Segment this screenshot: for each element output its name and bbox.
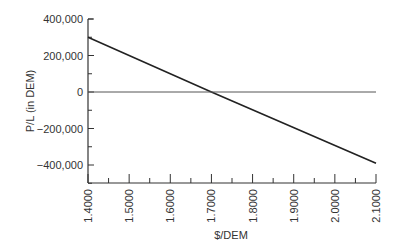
x-tick-label: 1.5000 bbox=[123, 189, 135, 223]
y-tick-label: 200,000 bbox=[43, 50, 83, 62]
x-axis-title: $/DEM bbox=[214, 229, 248, 241]
pl-chart: 400,000200,0000−200,000−400,000 1.40001.… bbox=[0, 0, 399, 247]
x-tick-label: 2.1000 bbox=[370, 189, 382, 223]
plot-area bbox=[88, 37, 376, 163]
y-axis-title: P/L (in DEM) bbox=[24, 70, 36, 133]
x-tick-label: 1.8000 bbox=[247, 189, 259, 223]
y-tick-label: 400,000 bbox=[43, 13, 83, 25]
pl-line bbox=[88, 37, 376, 163]
x-tick-label: 1.7000 bbox=[205, 189, 217, 223]
x-axis: 1.40001.50001.60001.70001.80001.90002.00… bbox=[82, 174, 382, 223]
x-tick-label: 1.4000 bbox=[82, 189, 94, 223]
x-tick-label: 2.0000 bbox=[329, 189, 341, 223]
y-axis: 400,000200,0000−200,000−400,000 bbox=[37, 13, 94, 183]
y-tick-label: −400,000 bbox=[37, 159, 83, 171]
x-tick-label: 1.9000 bbox=[288, 189, 300, 223]
y-tick-label: 0 bbox=[77, 86, 83, 98]
x-tick-label: 1.6000 bbox=[164, 189, 176, 223]
y-tick-label: −200,000 bbox=[37, 123, 83, 135]
